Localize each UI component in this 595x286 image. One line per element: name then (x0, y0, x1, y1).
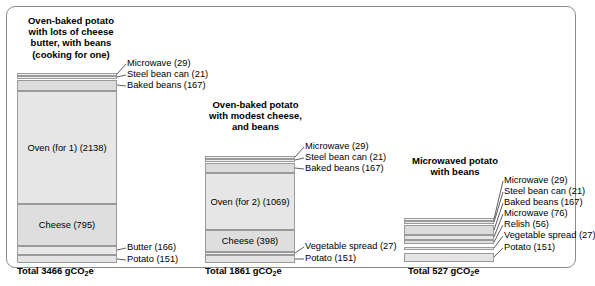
leader-lines-2 (193, 7, 393, 267)
callout-vegetable-spread-2: Vegetable spread (27) (305, 241, 396, 252)
chart-total-3: Total 527 gCO2e (408, 265, 479, 276)
callout-potato-2: Potato (151) (305, 253, 356, 264)
callout-microwave-3: Microwave (29) (504, 175, 568, 186)
chart-total-3-suffix: e (474, 265, 479, 276)
chart-total-2: Total 1861 gCO2e (205, 265, 282, 276)
callout-microwave-76-3: Microwave (76) (504, 208, 568, 219)
chart-total-2-suffix: e (276, 265, 281, 276)
chart-total-3-sub: 2 (470, 270, 474, 277)
chart-total-1: Total 3466 gCO2e (17, 265, 94, 276)
callout-steel-bean-can-3: Steel bean can (21) (504, 186, 585, 197)
callout-microwave-1: Microwave (29) (127, 58, 191, 69)
chart-panel-2: Oven-baked potato with modest cheese, an… (193, 7, 393, 267)
chart-total-2-sub: 2 (273, 270, 277, 277)
callout-butter-1: Butter (166) (127, 242, 176, 253)
callout-relish-3: Relish (56) (504, 219, 549, 230)
callout-steel-bean-can-2: Steel bean can (21) (305, 152, 386, 163)
callout-potato-1: Potato (151) (127, 254, 178, 265)
callout-potato-3: Potato (151) (504, 242, 555, 253)
callout-vegetable-spread-3: Vegetable spread (27) (504, 230, 595, 241)
chart-total-1-text: Total 3466 gCO (17, 265, 85, 276)
callout-microwave-2: Microwave (29) (305, 141, 369, 152)
chart-total-1-sub: 2 (85, 270, 89, 277)
chart-panel-3: Microwaved potato with beans Microwave (… (393, 7, 577, 267)
leader-lines-3 (393, 7, 577, 267)
chart-panel-1: Oven-baked potato with lots of cheese bu… (7, 7, 197, 267)
chart-total-1-suffix: e (88, 265, 93, 276)
figure-frame: Oven-baked potato with lots of cheese bu… (6, 6, 576, 268)
chart-total-2-text: Total 1861 gCO (205, 265, 273, 276)
callout-baked-beans-2: Baked beans (167) (305, 163, 384, 174)
chart-total-3-text: Total 527 gCO (408, 265, 470, 276)
leader-lines-1 (7, 7, 197, 267)
callout-baked-beans-3: Baked beans (167) (504, 197, 583, 208)
